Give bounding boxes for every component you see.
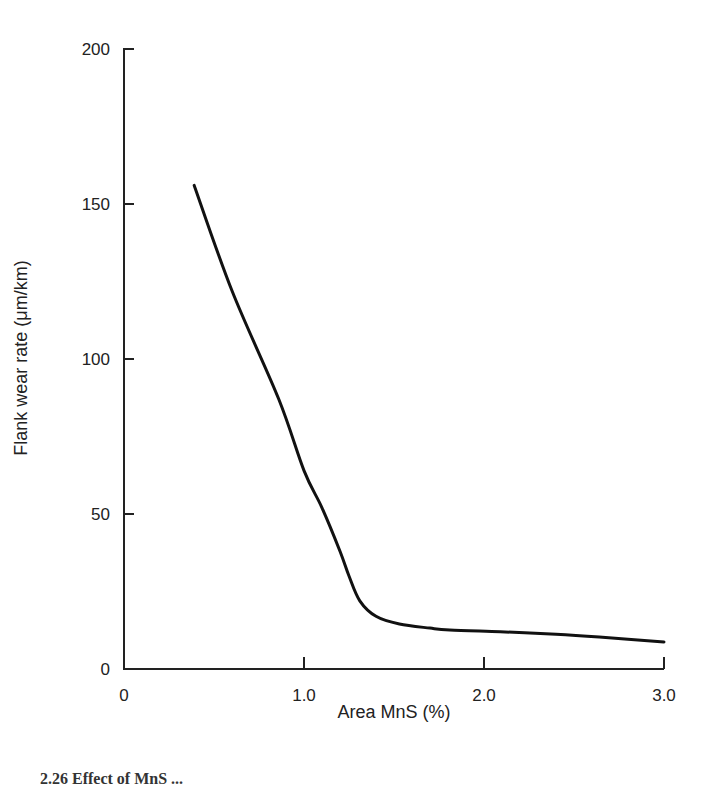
x-tick-label: 0 <box>119 686 128 705</box>
x-axis-ticks: 01.02.03.0 <box>119 657 676 705</box>
y-axis-ticks: 050100150200 <box>82 40 134 679</box>
y-tick-label: 100 <box>82 350 110 369</box>
y-tick-label: 150 <box>82 195 110 214</box>
y-tick-label: 50 <box>91 505 110 524</box>
y-tick-label: 200 <box>82 40 110 59</box>
x-axis-title: Area MnS (%) <box>337 702 450 722</box>
x-tick-label: 3.0 <box>652 686 676 705</box>
y-axis-title: Flank wear rate (μm/km) <box>11 260 31 455</box>
x-tick-label: 1.0 <box>292 686 316 705</box>
y-tick-label: 0 <box>101 660 110 679</box>
line-chart: 050100150200 01.02.03.0 Area MnS (%) Fla… <box>0 0 703 770</box>
flank-wear-curve <box>194 185 664 642</box>
x-tick-label: 2.0 <box>472 686 496 705</box>
figure-caption: 2.26 Effect of MnS ... <box>40 770 183 785</box>
